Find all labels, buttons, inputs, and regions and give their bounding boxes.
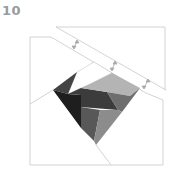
folded-shape <box>53 62 140 145</box>
fold-diagram <box>0 0 177 174</box>
